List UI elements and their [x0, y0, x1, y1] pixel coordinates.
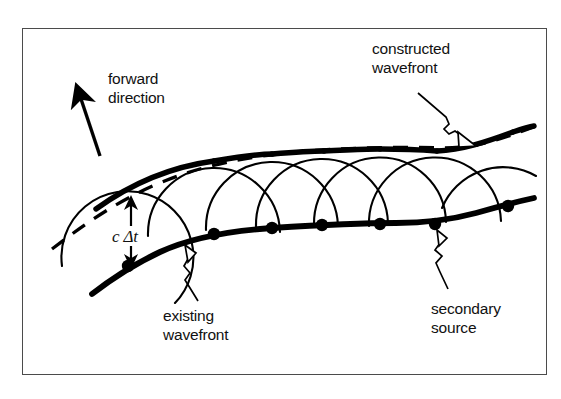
- secondary-source-dot: [502, 200, 514, 212]
- wavelet-arc-3: [206, 162, 338, 230]
- secondary-source-dot: [374, 218, 386, 230]
- constructed-wavefront-leader: [418, 93, 476, 147]
- secondary-source-dot: [429, 218, 441, 230]
- constructed-wavefront-leader-squiggle: [418, 93, 462, 136]
- secondary-source-dot: [316, 219, 328, 231]
- huygens-diagram: [0, 0, 561, 399]
- label-secondary-source: secondary source: [431, 300, 501, 337]
- existing-wavefront-path: [92, 198, 534, 294]
- existing-wavefront-leader: [184, 245, 198, 301]
- label-c-delta-t: c Δt: [112, 228, 138, 247]
- existing-wavefront-curve: [92, 198, 534, 294]
- wavelet-arc-6: [369, 157, 501, 226]
- secondary-source-dot: [266, 222, 278, 234]
- secondary-source-leader: [435, 230, 448, 289]
- label-constructed-wavefront: constructed wavefront: [372, 40, 450, 77]
- secondary-source-dot: [208, 228, 220, 240]
- forward-direction-arrow: [78, 90, 100, 156]
- label-forward-direction: forward direction: [108, 70, 165, 107]
- secondary-source-dots: [122, 200, 514, 272]
- forward-direction-arrow-shaft: [78, 90, 100, 156]
- secondary-source-leader-squiggle: [435, 243, 448, 289]
- secondary-source-dot: [122, 260, 134, 272]
- figure-page: forward direction constructed wavefront …: [0, 0, 561, 399]
- existing-wavefront-leader-squiggle: [184, 259, 198, 301]
- constructed-wavefront-leader-arrowhead: [458, 132, 476, 147]
- secondary-source-leader-arrowhead: [437, 230, 447, 246]
- label-existing-wavefront: existing wavefront: [163, 307, 228, 344]
